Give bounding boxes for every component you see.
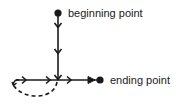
beginning-point-dot xyxy=(54,9,61,16)
beginning-point-label: beginning point xyxy=(68,7,143,19)
dashed-loop-path xyxy=(14,82,57,96)
ending-point-label: ending point xyxy=(110,74,170,86)
path-diagram: beginning point ending point xyxy=(0,0,183,106)
right-arrow-icon xyxy=(88,77,95,84)
ending-point-dot xyxy=(96,76,103,83)
